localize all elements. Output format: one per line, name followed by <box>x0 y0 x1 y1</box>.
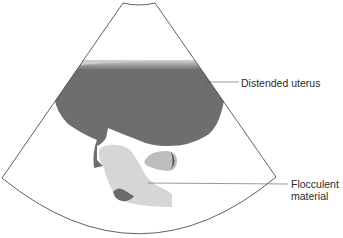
distended-uterus-region <box>40 61 225 168</box>
label-flocculent-material: Flocculent material <box>291 178 339 202</box>
ultrasound-sector-diagram <box>0 0 343 238</box>
label-flocculent-line1: Flocculent <box>291 178 339 190</box>
leader-line-flocculent <box>148 183 288 184</box>
label-flocculent-line2: material <box>291 190 339 202</box>
label-distended-uterus: Distended uterus <box>241 77 320 89</box>
